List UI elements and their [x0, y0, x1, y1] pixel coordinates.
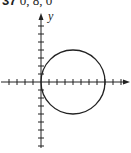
x-axis — [1, 79, 130, 85]
y-axis: y — [38, 9, 54, 148]
y-axis-arrow-icon — [39, 13, 44, 20]
y-axis-label: y — [47, 9, 54, 23]
graph: y — [0, 0, 131, 153]
x-axis-arrow-icon — [123, 80, 130, 85]
